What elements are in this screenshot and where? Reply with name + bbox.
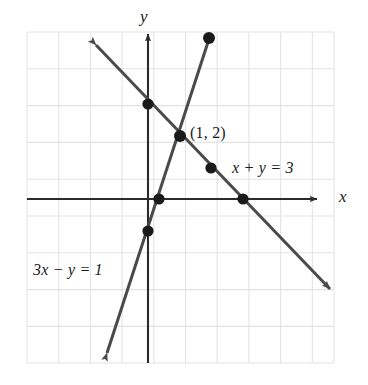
intersection-point-label: (1, 2) xyxy=(190,125,226,141)
grid-lines xyxy=(27,32,334,363)
point-0-minus-1 xyxy=(142,225,153,236)
point-1-2-intersection xyxy=(174,130,186,142)
coordinate-plane xyxy=(0,0,368,385)
line-equation-label-sum: x + y = 3 xyxy=(232,160,294,176)
point-3-0 xyxy=(237,193,248,204)
line-equation-label-diff: 3x − y = 1 xyxy=(33,262,103,278)
point-0-3 xyxy=(142,98,153,109)
point-one-third-0 xyxy=(153,193,164,204)
point-2-1 xyxy=(205,162,216,173)
x-axis-label: x xyxy=(339,188,347,205)
graph-figure: y x (1, 2) x + y = 3 3x − y = 1 xyxy=(0,0,368,385)
y-axis-label: y xyxy=(140,8,148,25)
point-line-endpoint-top xyxy=(203,32,215,44)
